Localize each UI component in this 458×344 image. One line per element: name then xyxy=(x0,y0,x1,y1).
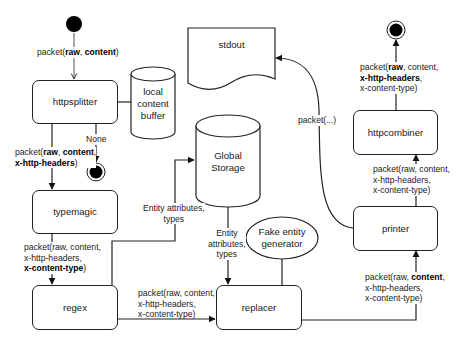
replacer-label: replacer xyxy=(242,302,277,314)
httpsplitter-node[interactable]: httpsplitter xyxy=(32,80,118,124)
regex-label: regex xyxy=(63,302,87,314)
edge-label-splitter-to-typemagic: packet(raw, content, x-http-headers) xyxy=(15,147,96,168)
local-buffer-label-line: content xyxy=(137,98,168,110)
fake-entity-generator-node[interactable]: Fake entity generator xyxy=(248,224,316,252)
diagram-canvas: httpsplitter typemagic regex replacer pr… xyxy=(0,0,458,344)
end-node-final xyxy=(387,21,405,39)
httpcombiner-label: httpcombiner xyxy=(368,127,423,139)
local-buffer-label-line: local xyxy=(143,86,163,98)
fake-gen-label-line: generator xyxy=(261,238,302,250)
printer-node[interactable]: printer xyxy=(353,206,438,251)
local-content-buffer-node[interactable]: local content buffer xyxy=(131,84,175,124)
regex-node[interactable]: regex xyxy=(32,285,118,330)
fake-gen-label-line: Fake entity xyxy=(259,226,306,238)
edge-label-start-to-splitter: packet(raw, content) xyxy=(37,47,119,58)
edge-label-none: None xyxy=(86,134,107,145)
global-storage-node[interactable]: Global Storage xyxy=(196,147,260,177)
local-buffer-label-line: buffer xyxy=(141,110,165,122)
printer-label: printer xyxy=(382,223,409,235)
stdout-node[interactable]: stdout xyxy=(188,30,275,60)
stdout-label: stdout xyxy=(218,39,244,51)
edge-label-replacer-to-printer: packet(raw, content, x-http-headers, x-c… xyxy=(365,272,445,304)
typemagic-label: typemagic xyxy=(53,206,97,218)
global-storage-label-line: Global xyxy=(214,150,242,162)
start-node xyxy=(66,16,82,32)
global-storage-label-line: Storage xyxy=(211,162,245,174)
edge-label-typemagic-to-regex: packet(raw, content, x-http-headers, x-c… xyxy=(24,242,101,274)
httpcombiner-node[interactable]: httpcombiner xyxy=(353,110,438,155)
edge-label-storage-to-replacer: Entity attributes, types xyxy=(208,228,246,260)
edge-label-regex-to-replacer: packet(raw, content, x-http-headers, x-c… xyxy=(138,288,215,320)
typemagic-node[interactable]: typemagic xyxy=(32,190,118,234)
httpsplitter-label: httpsplitter xyxy=(53,96,97,108)
edge-label-regex-to-storage: Entity attributes, types xyxy=(143,203,205,224)
replacer-node[interactable]: replacer xyxy=(216,285,302,330)
edge-label-printer-to-combiner: packet(raw, content, x-http-headers, x-c… xyxy=(373,164,450,196)
edge-label-combiner-to-end: packet(raw, content, x-http-headers, x-c… xyxy=(360,62,438,94)
edge-label-printer-to-stdout: packet(...) xyxy=(298,115,336,126)
